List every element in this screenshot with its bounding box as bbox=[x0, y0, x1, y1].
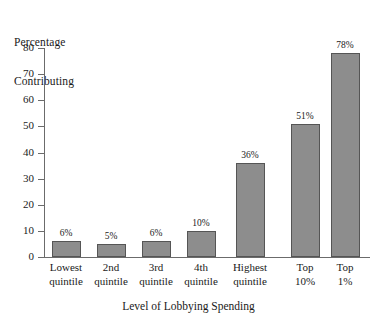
bar bbox=[142, 241, 171, 257]
bar-group: 6% bbox=[142, 48, 171, 257]
bar-group: 5% bbox=[97, 48, 126, 257]
bar-value-label: 36% bbox=[241, 150, 258, 161]
bar-value-label: 5% bbox=[105, 231, 118, 242]
y-axis-tick-label: 20 bbox=[23, 198, 34, 211]
bar bbox=[236, 163, 265, 257]
y-axis-tick-label: 80 bbox=[23, 41, 34, 54]
bar-group: 78% bbox=[331, 48, 360, 257]
y-axis-tick-label: 30 bbox=[23, 172, 34, 185]
y-axis-tick-mark bbox=[38, 257, 44, 258]
x-axis-category-label-line: 1% bbox=[305, 275, 377, 289]
bar-group: 51% bbox=[291, 48, 320, 257]
bar-chart-figure: Percentage Contributing 0102030405060708… bbox=[0, 0, 377, 323]
x-axis-category-label: Top1% bbox=[305, 261, 377, 288]
bar bbox=[52, 241, 81, 257]
bar-group: 6% bbox=[52, 48, 81, 257]
bar-value-label: 78% bbox=[336, 40, 353, 51]
x-axis-category-label-line: Top bbox=[305, 261, 377, 275]
bar bbox=[97, 244, 126, 257]
y-axis-tick-label: 50 bbox=[23, 119, 34, 132]
plot-area: 6%5%6%10%36%51%78% bbox=[44, 48, 370, 257]
y-axis-tick-label: 10 bbox=[23, 224, 34, 237]
bar bbox=[291, 124, 320, 257]
bar-value-label: 10% bbox=[192, 218, 209, 229]
bar-value-label: 6% bbox=[60, 228, 73, 239]
x-axis-line bbox=[44, 257, 370, 258]
bar-value-label: 6% bbox=[150, 228, 163, 239]
bar-value-label: 51% bbox=[296, 111, 313, 122]
bar-group: 10% bbox=[187, 48, 216, 257]
y-axis-tick-label: 60 bbox=[23, 93, 34, 106]
bar bbox=[331, 53, 360, 257]
y-axis-tick-label: 40 bbox=[23, 146, 34, 159]
y-axis-tick-label: 70 bbox=[23, 67, 34, 80]
x-axis-title: Level of Lobbying Spending bbox=[0, 299, 377, 313]
bar bbox=[187, 231, 216, 257]
y-axis-tick: 0 bbox=[38, 257, 44, 258]
bar-group: 36% bbox=[236, 48, 265, 257]
